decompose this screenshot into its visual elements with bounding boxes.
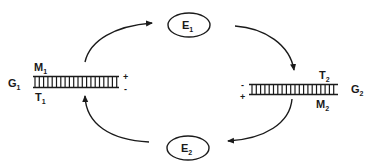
node-e1: E1 — [168, 13, 210, 37]
strand-label-t2: T2 — [319, 69, 330, 83]
duplex-label-g1: G1 — [8, 77, 21, 91]
strand-label-m2: M2 — [316, 98, 329, 112]
duplex-label-g2: G2 — [351, 83, 364, 97]
charge-plus-g1: + — [123, 72, 128, 82]
base-pair-rungs-g1 — [35, 77, 117, 87]
charge-minus-g1: - — [124, 84, 127, 94]
arrow-e2-to-g1 — [85, 96, 149, 142]
arrow-g1-to-e1 — [85, 23, 152, 62]
charge-plus-g2: + — [240, 92, 245, 102]
base-pair-rungs-g2 — [252, 85, 334, 94]
strand-label-m1: M1 — [34, 61, 47, 75]
charge-minus-g2: - — [241, 80, 244, 90]
duplex-g2: T2 M2 G2 - + — [240, 69, 364, 112]
arrow-g2-to-e2 — [228, 99, 292, 141]
arrow-e1-to-g2 — [235, 26, 294, 70]
duplex-g1: G1 M1 T1 + - — [8, 61, 128, 105]
node-e2: E2 — [167, 136, 209, 160]
strand-label-t1: T1 — [35, 91, 46, 105]
exchange-cycle-diagram: G1 M1 T1 + - — [0, 0, 374, 161]
